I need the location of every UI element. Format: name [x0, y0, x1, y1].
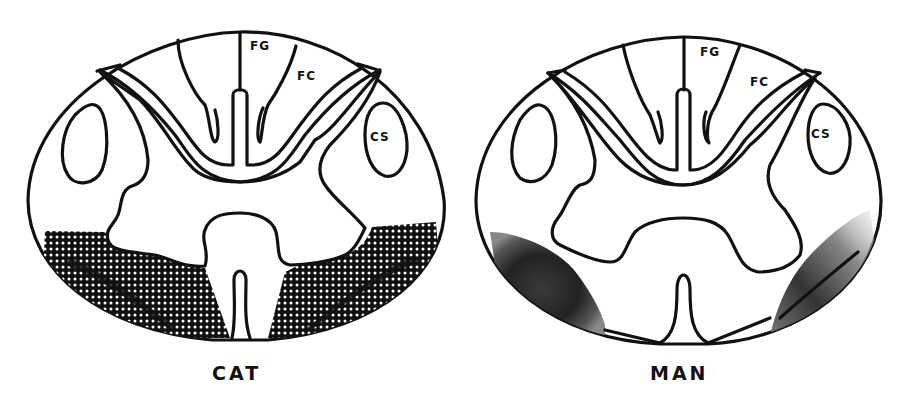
species-label-man: MAN: [650, 362, 709, 384]
label-fc-man: FC: [750, 75, 769, 89]
species-label-cat: CAT: [212, 362, 261, 384]
spinal-cord-comparison-figure: FG FC CS CAT FG FC CS MAN: [0, 0, 908, 405]
label-fg: FG: [250, 39, 270, 53]
label-cs: CS: [370, 130, 390, 144]
cat-panel: FG FC CS CAT: [28, 32, 445, 384]
label-fg-man: FG: [700, 45, 720, 59]
label-cs-man: CS: [811, 127, 831, 141]
label-fc: FC: [297, 69, 316, 83]
man-panel: FG FC CS MAN: [476, 37, 881, 384]
